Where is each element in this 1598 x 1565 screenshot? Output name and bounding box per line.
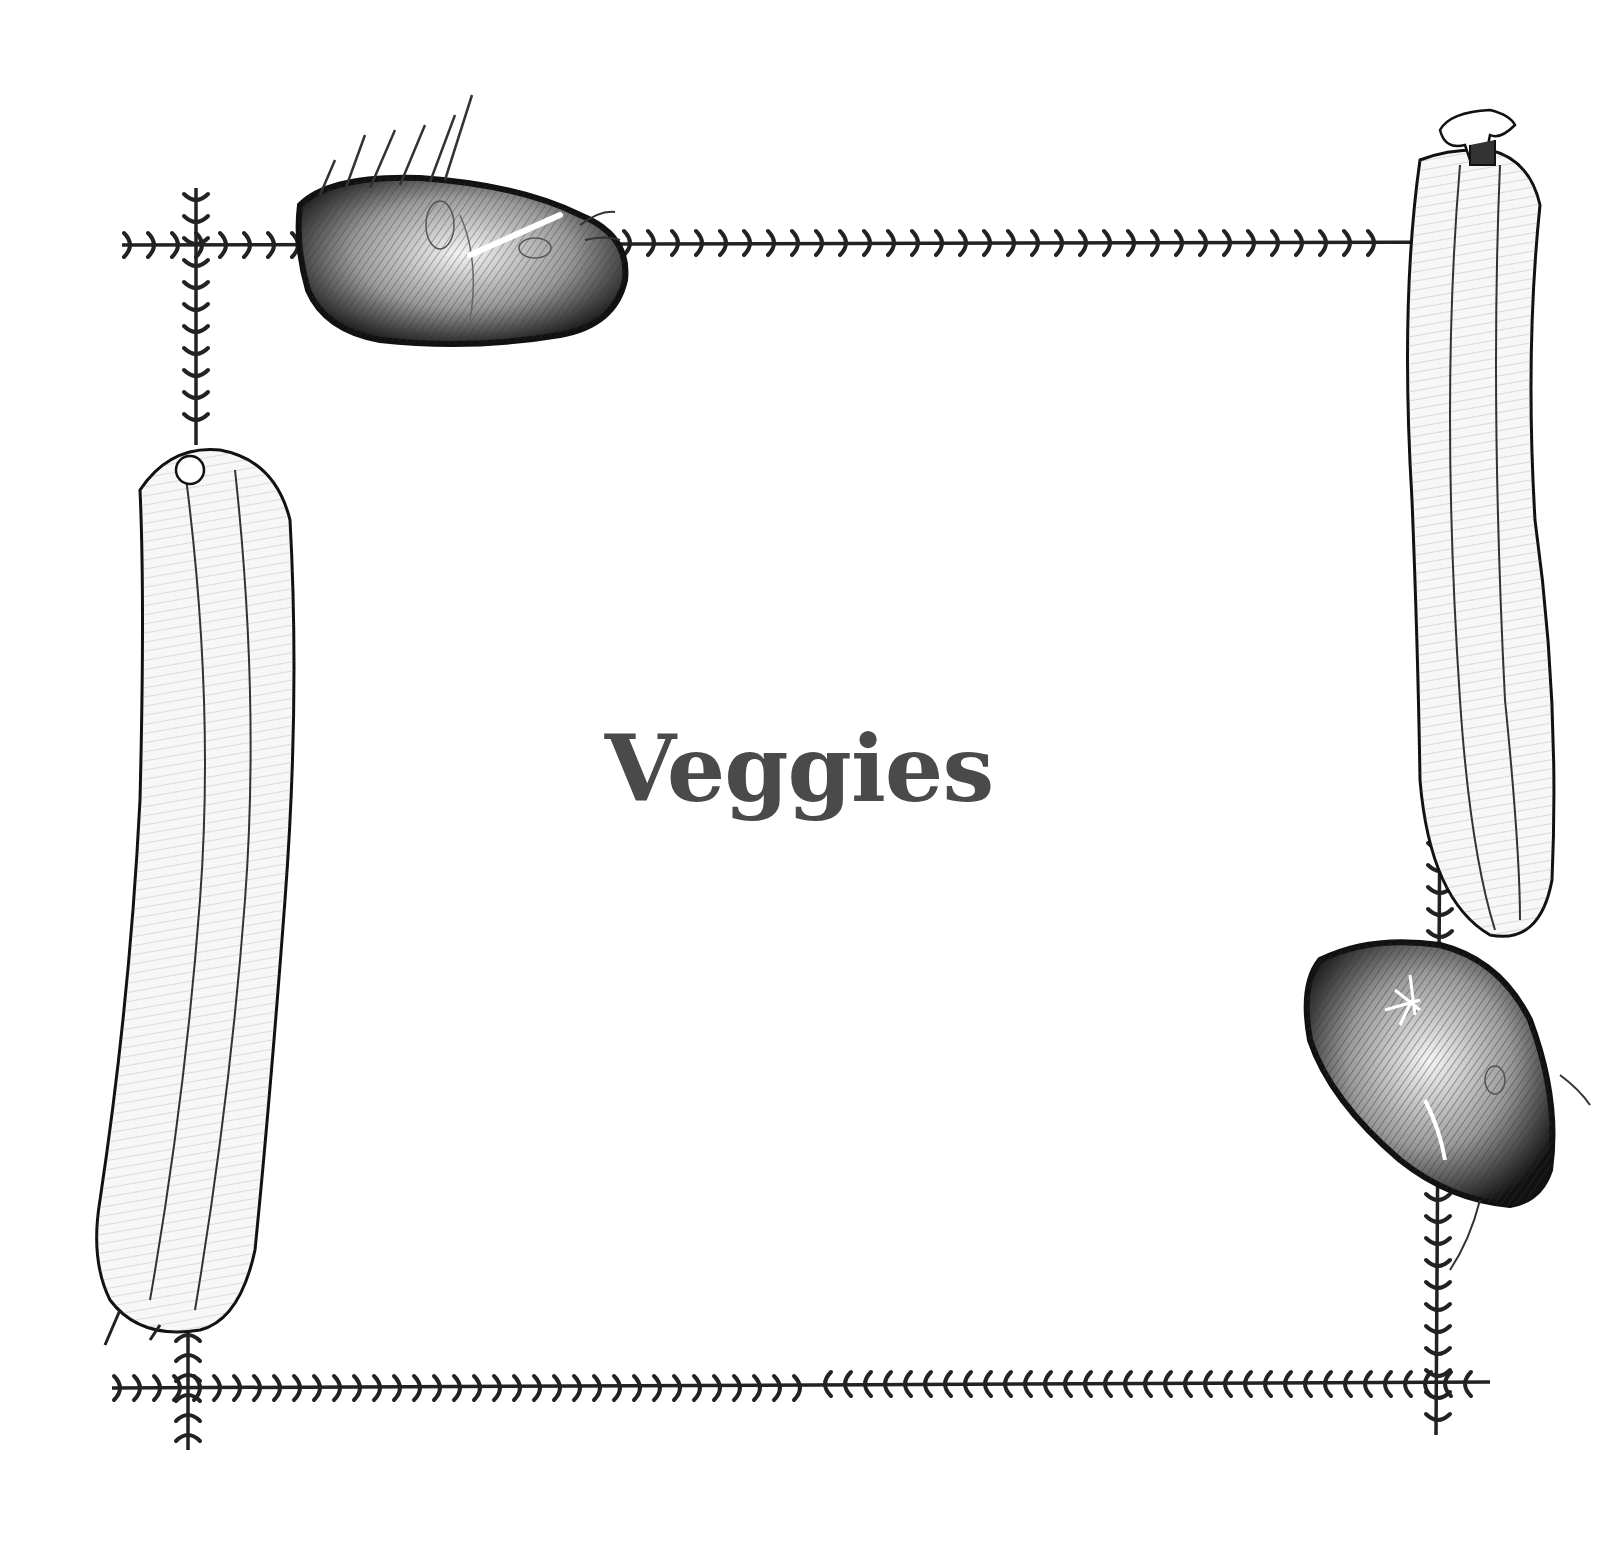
page-title: Veggies bbox=[0, 715, 1598, 823]
zucchini-left-illustration bbox=[97, 450, 294, 1346]
potato-bottom-right-illustration bbox=[1307, 942, 1590, 1270]
potato-top-illustration bbox=[299, 95, 626, 344]
bottom-vine-border bbox=[112, 1372, 1490, 1400]
